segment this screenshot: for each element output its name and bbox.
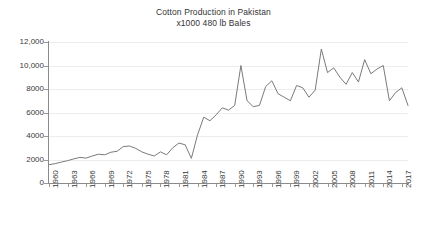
- x-axis-tick-mark: [216, 184, 217, 187]
- x-axis-tick-mark: [198, 184, 199, 187]
- y-axis-tick-mark: [44, 42, 48, 43]
- cotton-production-chart: Cotton Production in Pakistan x1000 480 …: [0, 0, 427, 225]
- y-axis-tick-label: 4000: [0, 132, 44, 140]
- x-axis-tick-mark: [309, 184, 310, 187]
- y-axis-tick-mark: [44, 183, 48, 184]
- y-axis-tick-mark: [44, 160, 48, 161]
- series-layer: [49, 42, 408, 183]
- y-axis-tick-label: 2000: [0, 156, 44, 164]
- x-axis-tick-mark: [328, 184, 329, 187]
- y-axis-tick-label: 6000: [0, 109, 44, 117]
- x-axis-tick-mark: [68, 184, 69, 187]
- x-axis-tick-mark: [123, 184, 124, 187]
- x-axis-tick-mark: [346, 184, 347, 187]
- x-axis-tick-mark: [402, 184, 403, 187]
- y-axis-tick-label: 0: [0, 179, 44, 187]
- y-axis-tick-mark: [44, 113, 48, 114]
- x-axis-tick-mark: [253, 184, 254, 187]
- x-axis-tick-mark: [290, 184, 291, 187]
- x-axis-tick-mark: [383, 184, 384, 187]
- x-axis-tick-mark: [49, 184, 50, 187]
- y-axis-tick-mark: [44, 66, 48, 67]
- y-axis-tick-label: 12,000: [0, 38, 44, 46]
- x-axis-tick-mark: [235, 184, 236, 187]
- x-axis-tick-mark: [105, 184, 106, 187]
- y-axis-tick-label: 10,000: [0, 62, 44, 70]
- x-axis-tick-mark: [86, 184, 87, 187]
- chart-title: Cotton Production in Pakistan: [0, 7, 427, 18]
- chart-subtitle: x1000 480 lb Bales: [0, 18, 427, 29]
- x-axis-tick-mark: [160, 184, 161, 187]
- x-axis-tick-mark: [272, 184, 273, 187]
- cotton-production-line: [49, 49, 408, 165]
- x-axis-tick-mark: [365, 184, 366, 187]
- y-axis-tick-label: 8000: [0, 85, 44, 93]
- plot-area: [49, 42, 408, 183]
- x-axis-tick-mark: [179, 184, 180, 187]
- y-axis-tick-mark: [44, 136, 48, 137]
- chart-title-block: Cotton Production in Pakistan x1000 480 …: [0, 7, 427, 29]
- x-axis-tick-mark: [142, 184, 143, 187]
- y-axis-tick-mark: [44, 89, 48, 90]
